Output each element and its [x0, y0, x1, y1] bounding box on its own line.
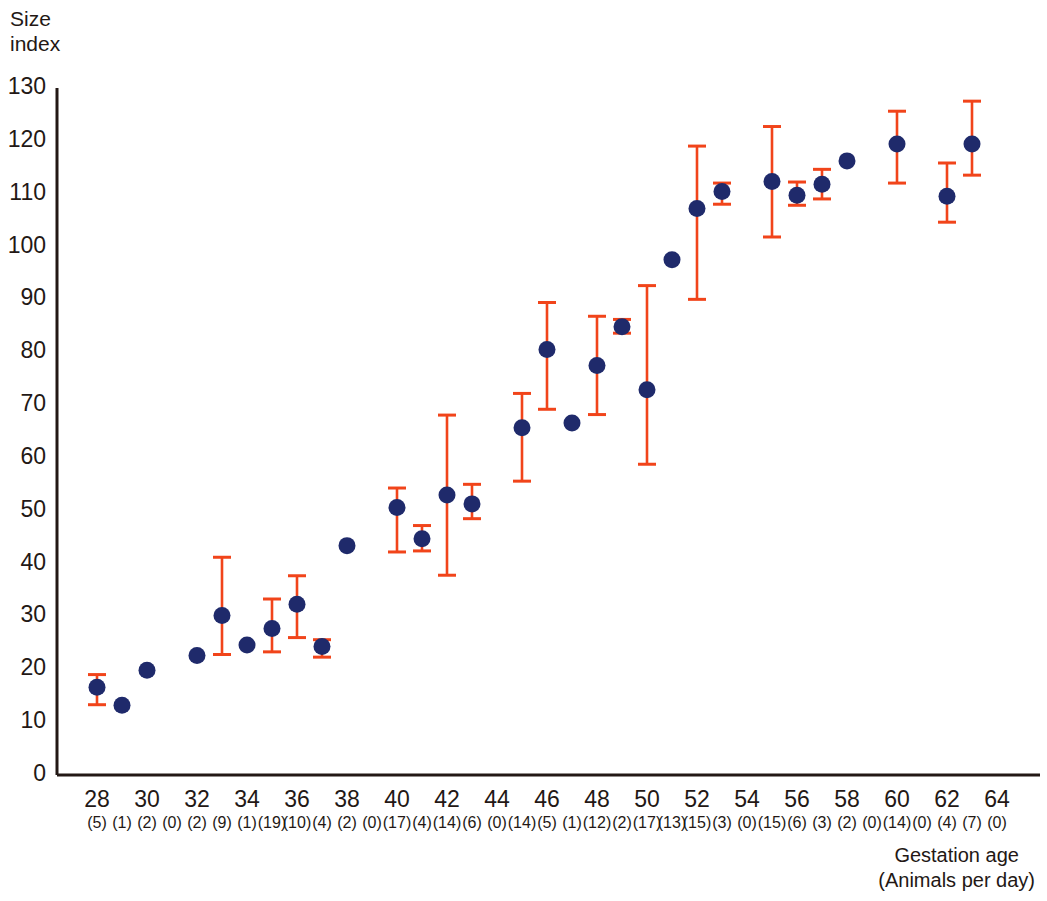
data-point-marker [464, 495, 481, 512]
chart-plot-area [0, 0, 1047, 901]
data-point-marker [614, 318, 631, 335]
data-point-marker [339, 537, 356, 554]
error-bar [638, 286, 656, 465]
y-axis-tick-label: 30 [0, 601, 46, 628]
chart-page: Size index 01020304050607080901001101201… [0, 0, 1047, 901]
data-point-marker [214, 607, 231, 624]
x-axis-title: Gestation age (Animals per day) [878, 843, 1035, 893]
data-point-marker [439, 486, 456, 503]
error-bar [688, 146, 706, 299]
y-axis-tick-label: 70 [0, 390, 46, 417]
y-axis-tick-label: 120 [0, 126, 46, 153]
y-axis-tick-label: 130 [0, 73, 46, 100]
data-point-marker [814, 176, 831, 193]
data-point-marker [764, 173, 781, 190]
data-point-marker [389, 499, 406, 516]
x-axis-count-label: (0) [977, 814, 1017, 832]
data-point-marker [714, 183, 731, 200]
data-point-marker [539, 341, 556, 358]
y-axis-tick-label: 110 [0, 179, 46, 206]
data-point-marker [114, 697, 131, 714]
data-point-marker [839, 152, 856, 169]
y-axis-tick-label: 20 [0, 654, 46, 681]
y-axis-tick-label: 40 [0, 549, 46, 576]
error-bar [388, 488, 406, 552]
error-bar [513, 393, 531, 481]
data-point-marker [589, 357, 606, 374]
data-point-marker [239, 636, 256, 653]
data-point-marker [414, 530, 431, 547]
data-point-marker [289, 596, 306, 613]
data-point-marker [889, 135, 906, 152]
data-point-marker [89, 679, 106, 696]
y-axis-tick-label: 60 [0, 443, 46, 470]
data-point-marker [139, 662, 156, 679]
data-point-marker [639, 381, 656, 398]
error-bar [213, 557, 231, 654]
data-point-marker [664, 251, 681, 268]
data-point-marker [514, 419, 531, 436]
x-axis-tick-label: 64 [967, 786, 1027, 813]
y-axis-tick-label: 100 [0, 232, 46, 259]
y-axis-tick-label: 0 [0, 760, 46, 787]
data-point-marker [964, 135, 981, 152]
y-axis-tick-label: 10 [0, 707, 46, 734]
y-axis-tick-label: 90 [0, 284, 46, 311]
data-point-marker [314, 638, 331, 655]
x-axis-title-line1: Gestation age [878, 843, 1035, 868]
y-axis-tick-label: 80 [0, 337, 46, 364]
data-point-marker [689, 200, 706, 217]
y-axis-tick-label: 50 [0, 496, 46, 523]
data-point-marker [939, 188, 956, 205]
data-point-marker [189, 647, 206, 664]
data-point-marker [789, 187, 806, 204]
x-axis-title-line2: (Animals per day) [878, 868, 1035, 893]
data-point-marker [264, 620, 281, 637]
data-point-marker [564, 415, 581, 432]
